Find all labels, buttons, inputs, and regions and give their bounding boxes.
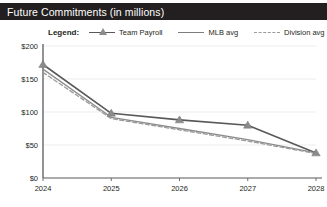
y-tick-label: $50 bbox=[25, 141, 38, 150]
panel-title-bar: Future Commitments (in millions) bbox=[0, 3, 327, 20]
series-line bbox=[43, 64, 316, 152]
y-tick-label: $200 bbox=[21, 42, 38, 51]
series-lines bbox=[43, 64, 316, 153]
y-tick-label: $150 bbox=[21, 75, 38, 84]
y-axis-tick-labels: $0$50$100$150$200 bbox=[21, 42, 38, 183]
line-chart: $0$50$100$150$200 20242025202620272028 bbox=[0, 20, 327, 207]
series-line bbox=[43, 72, 316, 153]
y-tick-label: $0 bbox=[30, 174, 38, 183]
page-title: Future Commitments (in millions) bbox=[0, 6, 164, 18]
x-tick-label: 2028 bbox=[308, 184, 325, 193]
y-tick-label: $100 bbox=[21, 108, 38, 117]
x-tick-label: 2025 bbox=[103, 184, 120, 193]
x-tick-label: 2027 bbox=[239, 184, 256, 193]
data-point-marker bbox=[39, 60, 47, 67]
x-tick-label: 2024 bbox=[35, 184, 52, 193]
chart-panel: Future Commitments (in millions) Legend:… bbox=[0, 0, 327, 207]
series-markers bbox=[39, 60, 320, 155]
x-tick-label: 2026 bbox=[171, 184, 188, 193]
x-axis-tick-labels: 20242025202620272028 bbox=[35, 184, 325, 193]
plot-area: Legend: Team Payroll MLB avg Division av… bbox=[0, 20, 327, 207]
series-line bbox=[43, 69, 316, 153]
axis-lines bbox=[43, 44, 322, 178]
